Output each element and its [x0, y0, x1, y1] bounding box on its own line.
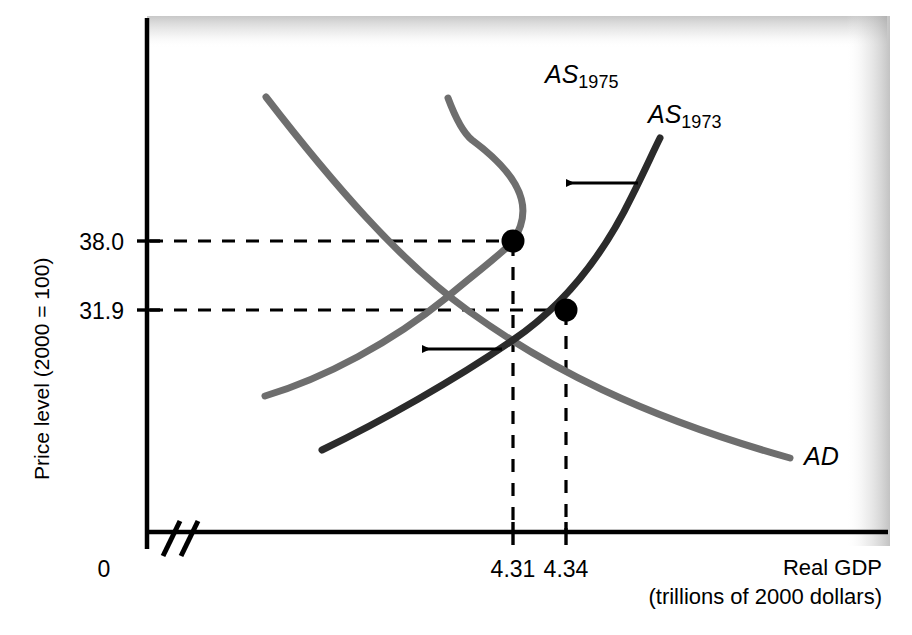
curve-label-as1975-sub: 1975: [578, 72, 618, 92]
guide-lines: [150, 241, 566, 530]
curve-label-ad: AD: [804, 442, 839, 471]
curve-label-as1973-text: AS: [648, 100, 681, 128]
curve-label-as1973-sub: 1973: [681, 112, 721, 132]
axis-lines: [147, 18, 888, 549]
y-tick-label-31-9: 31.9: [44, 298, 124, 325]
curve-label-as1973: AS1973: [648, 100, 721, 133]
equilibrium-point-1975: [502, 230, 525, 253]
curve-label-ad-text: AD: [804, 442, 839, 470]
y-tick-label-38: 38.0: [44, 229, 124, 256]
curve-ad: [266, 97, 790, 458]
x-tick-label-4-34: 4.34: [526, 556, 606, 583]
equilibrium-point-1973: [555, 299, 578, 322]
curve-label-as1975: AS1975: [545, 60, 618, 93]
y-axis-title: Price level (2000 = 100): [30, 50, 60, 480]
curve-label-as1975-text: AS: [545, 60, 578, 88]
chart-canvas: [0, 0, 912, 635]
x-axis-title-line1: Real GDP: [660, 555, 882, 581]
x-axis-title-line2: (trillions of 2000 dollars): [600, 584, 882, 610]
curve-as1973: [322, 138, 660, 450]
axis-break-icon: [163, 521, 198, 556]
figure-container: Price level (2000 = 100) 38.0 31.9 0 4.3…: [0, 0, 912, 635]
origin-label: 0: [84, 556, 124, 583]
scan-shading: [147, 16, 890, 546]
